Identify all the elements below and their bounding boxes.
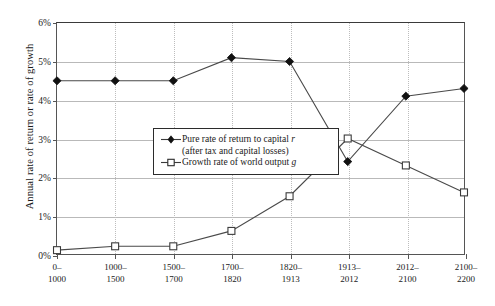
legend-sublabel-return: (after tax and capital losses) — [160, 146, 331, 158]
x-tick-line: 1500 — [106, 274, 124, 284]
x-tick-mark — [115, 254, 116, 259]
data-point-growth — [344, 135, 351, 142]
open-square-marker-icon — [160, 157, 182, 169]
x-tick-label: 1913–2012 — [338, 262, 361, 285]
plot-area: 0%1%2%3%4%5%6% 0–10001000–15001500–17001… — [56, 22, 465, 255]
y-tick-label: 1% — [38, 212, 51, 222]
data-point-return — [227, 54, 235, 62]
x-tick-label: 1000–1500 — [104, 262, 127, 285]
x-tick-label: 0–1000 — [48, 262, 66, 285]
x-tick-mark — [349, 254, 350, 259]
data-point-growth — [461, 189, 468, 196]
legend-symbol-g: g — [292, 157, 297, 167]
x-tick-line: 2012– — [396, 262, 419, 272]
data-point-return — [460, 84, 468, 92]
x-tick-line: 2012 — [340, 274, 358, 284]
x-tick-line: 1820 — [223, 274, 241, 284]
x-tick-line: 2100 — [399, 274, 417, 284]
data-point-return — [53, 77, 61, 85]
x-tick-label: 2012–2100 — [396, 262, 419, 285]
x-tick-mark — [57, 254, 58, 259]
legend-label-return: Pure rate of return to capital r — [182, 134, 331, 146]
x-tick-line: 1913 — [282, 274, 300, 284]
y-tick-label: 6% — [38, 18, 51, 28]
x-tick-mark — [174, 254, 175, 259]
legend-symbol-r: r — [291, 134, 295, 144]
y-tick-label: 2% — [38, 173, 51, 183]
x-tick-line: 1913– — [338, 262, 361, 272]
x-tick-mark — [232, 254, 233, 259]
legend-label-growth: Growth rate of world output g — [182, 157, 331, 169]
filled-diamond-marker-icon — [160, 134, 182, 146]
x-tick-line: 1700 — [165, 274, 183, 284]
x-tick-line: 1000– — [104, 262, 127, 272]
y-tick-label: 5% — [38, 57, 51, 67]
data-point-return — [111, 77, 119, 85]
x-tick-mark — [291, 254, 292, 259]
x-tick-line: 1700– — [221, 262, 244, 272]
x-tick-line: 0– — [53, 262, 62, 272]
x-tick-line: 2200 — [457, 274, 475, 284]
x-tick-line: 1820– — [279, 262, 302, 272]
x-tick-label: 1820–1913 — [279, 262, 302, 285]
x-tick-line: 1500– — [163, 262, 186, 272]
chart-figure: Annual rate of return or rate of growth … — [0, 0, 495, 306]
y-axis-title: Annual rate of return or rate of growth — [24, 17, 35, 237]
data-point-growth — [54, 247, 61, 254]
y-tick-label: 4% — [38, 96, 51, 106]
legend-item-return: Pure rate of return to capital r — [160, 134, 331, 146]
y-tick-label: 0% — [38, 251, 51, 261]
x-tick-mark — [466, 254, 467, 259]
y-tick-label: 3% — [38, 135, 51, 145]
x-tick-mark — [408, 254, 409, 259]
x-tick-label: 1700–1820 — [221, 262, 244, 285]
data-point-growth — [112, 243, 119, 250]
data-point-growth — [170, 243, 177, 250]
chart-legend: Pure rate of return to capital r (after … — [153, 128, 339, 175]
x-tick-label: 2100–2200 — [455, 262, 478, 285]
data-point-growth — [228, 227, 235, 234]
legend-item-growth: Growth rate of world output g — [160, 157, 331, 169]
x-tick-line: 2100– — [455, 262, 478, 272]
x-tick-label: 1500–1700 — [163, 262, 186, 285]
data-point-return — [169, 77, 177, 85]
data-point-growth — [286, 193, 293, 200]
data-point-growth — [402, 162, 409, 169]
data-point-return — [285, 57, 293, 65]
x-tick-line: 1000 — [48, 274, 66, 284]
